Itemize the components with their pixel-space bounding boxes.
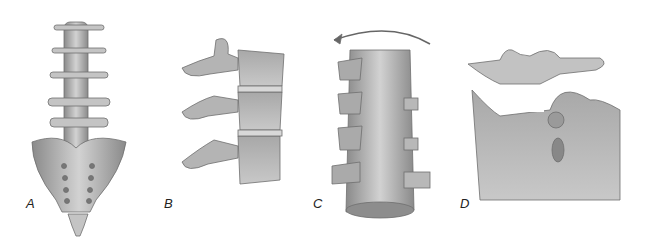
panel-label-d: D [460,196,469,211]
spine-illustration [0,0,646,246]
panel-label-a: A [26,196,35,211]
panel-a-posterior-spine [32,22,126,236]
panel-b-lateral-spine [182,39,284,184]
panel-d-closeup [468,50,620,200]
panel-label-b: B [164,196,173,211]
panel-label-c: C [313,196,322,211]
panel-c-rotated-spine [332,31,430,218]
rotation-arrow-icon [334,31,430,44]
